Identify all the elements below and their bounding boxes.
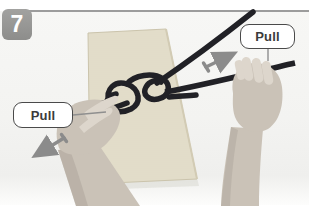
instruction-step-panel: 7 Pull Pull xyxy=(0,0,309,220)
pull-label-left: Pull xyxy=(13,102,73,128)
step-number-badge: 7 xyxy=(2,9,32,40)
pull-left-text: Pull xyxy=(31,108,56,123)
pull-label-right: Pull xyxy=(240,24,295,49)
pull-arrow-up-right-icon xyxy=(204,55,232,71)
pull-right-text: Pull xyxy=(255,29,280,44)
rope-wrap-right xyxy=(169,95,196,97)
step-number: 7 xyxy=(11,13,24,36)
